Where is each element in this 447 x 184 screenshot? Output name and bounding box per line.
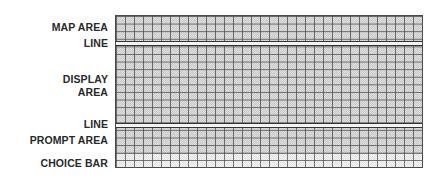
display-area-label-line2: AREA bbox=[78, 86, 108, 98]
bottom-line-label: LINE bbox=[84, 118, 108, 130]
top-line-label: LINE bbox=[84, 37, 108, 49]
map-area-label: MAP AREA bbox=[52, 21, 108, 33]
choice-bar-label: CHOICE BAR bbox=[40, 157, 108, 169]
top-divider-line bbox=[116, 41, 422, 46]
choice-bar-region bbox=[116, 153, 422, 167]
bottom-divider-line bbox=[116, 123, 422, 128]
display-area-label-line1: DISPLAY bbox=[63, 73, 108, 85]
prompt-area-label: PROMPT AREA bbox=[30, 134, 108, 146]
screen-layout-grid bbox=[115, 15, 423, 168]
